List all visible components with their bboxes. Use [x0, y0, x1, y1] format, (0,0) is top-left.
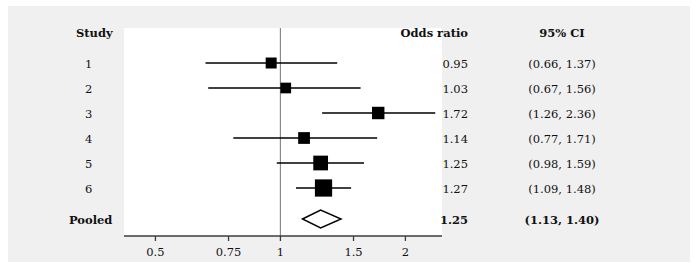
x-axis-tick-label: 2 — [380, 247, 430, 259]
row-or-pooled: 1.25 — [394, 215, 468, 227]
column-header-odds-ratio: Odds ratio — [394, 28, 468, 40]
row-label-2: 2 — [85, 84, 92, 96]
x-axis-tick-label: 1.5 — [329, 247, 379, 259]
row-ci-6: (1.09, 1.48) — [514, 184, 610, 196]
row-label-1: 1 — [85, 59, 92, 71]
row-ci-5: (0.98, 1.59) — [514, 159, 610, 171]
x-axis — [124, 236, 442, 241]
column-header-ci: 95% CI — [514, 28, 610, 40]
row-or-4: 1.14 — [394, 134, 468, 146]
row-ci-4: (0.77, 1.71) — [514, 134, 610, 146]
figure-inner: Study Odds ratio 95% CI 1 0.95 (0.66, 1.… — [8, 6, 690, 262]
row-or-6: 1.27 — [394, 184, 468, 196]
row-label-6: 6 — [85, 184, 92, 196]
row-label-5: 5 — [85, 159, 92, 171]
row-or-5: 1.25 — [394, 159, 468, 171]
row-ci-pooled: (1.13, 1.40) — [514, 215, 610, 227]
x-axis-tick-label: 1 — [255, 247, 305, 259]
row-ci-2: (0.67, 1.56) — [514, 84, 610, 96]
x-axis-tick-label: 0.5 — [130, 247, 180, 259]
row-ci-1: (0.66, 1.37) — [514, 59, 610, 71]
row-ci-3: (1.26, 2.36) — [514, 109, 610, 121]
row-label-3: 3 — [85, 109, 92, 121]
column-header-study: Study — [76, 28, 113, 40]
row-label-pooled: Pooled — [69, 215, 112, 227]
row-or-2: 1.03 — [394, 84, 468, 96]
row-or-1: 0.95 — [394, 59, 468, 71]
forest-plot-figure: Study Odds ratio 95% CI 1 0.95 (0.66, 1.… — [8, 6, 690, 262]
x-axis-tick-label: 0.75 — [204, 247, 254, 259]
row-or-3: 1.72 — [394, 109, 468, 121]
row-label-4: 4 — [85, 134, 92, 146]
